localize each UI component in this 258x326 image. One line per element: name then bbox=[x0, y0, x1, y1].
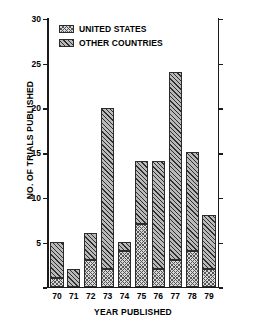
x-tick-label-77: 77 bbox=[167, 291, 184, 301]
bar-segment-other-countries-78 bbox=[186, 152, 199, 250]
legend-item-united-states: UNITED STATES bbox=[59, 23, 163, 35]
chart-legend: UNITED STATES OTHER COUNTRIES bbox=[59, 23, 163, 51]
y-tick-0 bbox=[43, 287, 47, 289]
bar-segment-united-states-75 bbox=[135, 224, 148, 287]
x-tick-label-79: 79 bbox=[201, 291, 218, 301]
x-tick-label-73: 73 bbox=[99, 291, 116, 301]
x-axis-line bbox=[47, 287, 219, 289]
y-tick-label-20: 20 bbox=[32, 103, 41, 113]
x-tick-label-78: 78 bbox=[184, 291, 201, 301]
y-tick-5 bbox=[43, 243, 47, 245]
legend-swatch-other-countries bbox=[59, 39, 74, 47]
bar-segment-other-countries-72 bbox=[84, 233, 97, 260]
bar-segment-united-states-76 bbox=[152, 269, 165, 287]
x-tick-label-74: 74 bbox=[116, 291, 133, 301]
bar-segment-united-states-73 bbox=[101, 269, 114, 287]
y-tick-25 bbox=[43, 64, 47, 66]
y-tick-label-25: 25 bbox=[32, 59, 41, 69]
bar-group-71 bbox=[67, 18, 80, 287]
bar-segment-united-states-77 bbox=[169, 260, 182, 287]
y-tick-right-0 bbox=[219, 287, 223, 289]
bar-segment-united-states-72 bbox=[84, 260, 97, 287]
bar-segment-other-countries-71 bbox=[67, 269, 80, 287]
x-tick-label-76: 76 bbox=[150, 291, 167, 301]
y-tick-label-5: 5 bbox=[36, 238, 41, 248]
bar-segment-other-countries-73 bbox=[101, 108, 114, 269]
y-tick-right-20 bbox=[219, 108, 223, 110]
x-axis-tick-labels: 70717273747576777879 bbox=[47, 291, 219, 305]
x-tick-label-75: 75 bbox=[133, 291, 150, 301]
legend-label-other-countries: OTHER COUNTRIES bbox=[79, 38, 163, 48]
y-tick-label-10: 10 bbox=[32, 193, 41, 203]
bar-group-72 bbox=[84, 18, 97, 287]
x-tick-label-70: 70 bbox=[49, 291, 66, 301]
bar-group-73 bbox=[101, 18, 114, 287]
y-tick-20 bbox=[43, 108, 47, 110]
bar-group-70 bbox=[50, 18, 63, 287]
bar-group-75 bbox=[135, 18, 148, 287]
y-tick-right-15 bbox=[219, 153, 223, 155]
bar-segment-other-countries-79 bbox=[202, 215, 215, 269]
x-tick-label-71: 71 bbox=[65, 291, 82, 301]
y-tick-15 bbox=[43, 153, 47, 155]
y-tick-right-25 bbox=[219, 64, 223, 66]
bar-group-78 bbox=[186, 18, 199, 287]
bar-group-76 bbox=[152, 18, 165, 287]
legend-item-other-countries: OTHER COUNTRIES bbox=[59, 37, 163, 49]
plot-area: 51015202530 bbox=[47, 18, 219, 288]
x-axis-title: YEAR PUBLISHED bbox=[47, 307, 219, 317]
bar-chart: NO. OF TRIALS PUBLISHED 51015202530 7071… bbox=[0, 0, 258, 326]
bar-segment-other-countries-75 bbox=[135, 161, 148, 224]
y-tick-right-10 bbox=[219, 198, 223, 200]
y-tick-30 bbox=[43, 19, 47, 21]
x-tick-label-72: 72 bbox=[82, 291, 99, 301]
legend-label-united-states: UNITED STATES bbox=[79, 24, 147, 34]
y-tick-10 bbox=[43, 198, 47, 200]
bar-group-77 bbox=[169, 18, 182, 287]
bar-segment-other-countries-70 bbox=[50, 242, 63, 278]
bar-segment-other-countries-76 bbox=[152, 161, 165, 268]
bar-segment-united-states-79 bbox=[202, 269, 215, 287]
y-tick-label-30: 30 bbox=[32, 14, 41, 24]
bar-group-79 bbox=[202, 18, 215, 287]
bar-group-74 bbox=[118, 18, 131, 287]
bar-series-group bbox=[49, 18, 218, 287]
y-axis-title: NO. OF TRIALS PUBLISHED bbox=[25, 50, 35, 230]
legend-swatch-united-states bbox=[59, 25, 74, 33]
bar-segment-united-states-70 bbox=[50, 278, 63, 287]
bar-segment-other-countries-77 bbox=[169, 72, 182, 260]
bar-segment-other-countries-74 bbox=[118, 242, 131, 251]
bar-segment-united-states-78 bbox=[186, 251, 199, 287]
y-tick-label-15: 15 bbox=[32, 148, 41, 158]
bar-segment-united-states-74 bbox=[118, 251, 131, 287]
y-tick-right-5 bbox=[219, 243, 223, 245]
y-tick-right-30 bbox=[219, 19, 223, 21]
